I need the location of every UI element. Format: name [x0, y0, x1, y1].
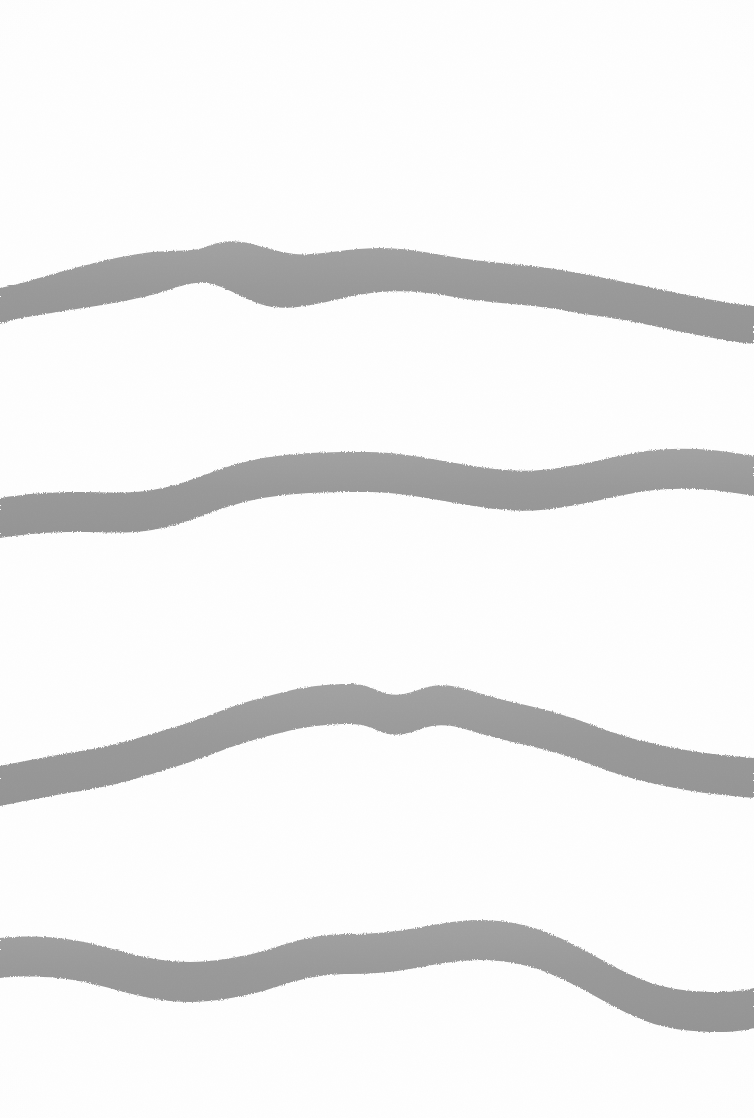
wavy-bands-illustration: [0, 0, 754, 1118]
artwork-canvas: Four Horizontal Wavy Gray Bands Abstract…: [0, 0, 754, 1118]
